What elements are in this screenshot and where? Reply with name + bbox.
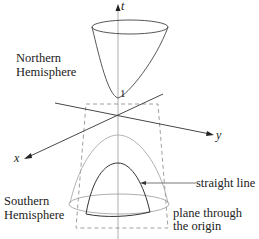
northern-sheet: [92, 27, 168, 98]
northern-label-1: Northern: [16, 51, 61, 65]
x-axis-arrow: [24, 153, 32, 159]
southern-label-2: Hemisphere: [4, 208, 64, 222]
x-axis-label: x: [14, 151, 19, 166]
vertex-label: 1: [120, 86, 126, 100]
y-axis-label: y: [216, 128, 221, 143]
southern-sheet: [70, 135, 168, 203]
t-axis-arrow: [116, 4, 121, 11]
plane-label-1: plane through: [173, 206, 242, 220]
northern-rim: [92, 20, 168, 34]
t-axis-label: t: [121, 0, 124, 14]
plane-label-2: the origin: [173, 219, 221, 233]
y-axis-arrow: [206, 131, 214, 136]
northern-label-2: Hemisphere: [16, 65, 76, 79]
southern-rim: [69, 194, 169, 214]
straight-line-label: straight line: [196, 176, 255, 190]
y-axis: [55, 103, 210, 134]
southern-label-1: Southern: [4, 194, 49, 208]
